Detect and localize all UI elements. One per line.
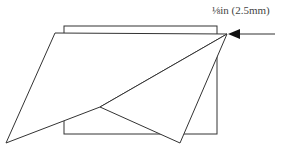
offset-measurement-label: ⅛in (2.5mm) [212,4,270,16]
folded-sheet-diagram [0,0,284,150]
arrow-head-icon [228,29,240,39]
